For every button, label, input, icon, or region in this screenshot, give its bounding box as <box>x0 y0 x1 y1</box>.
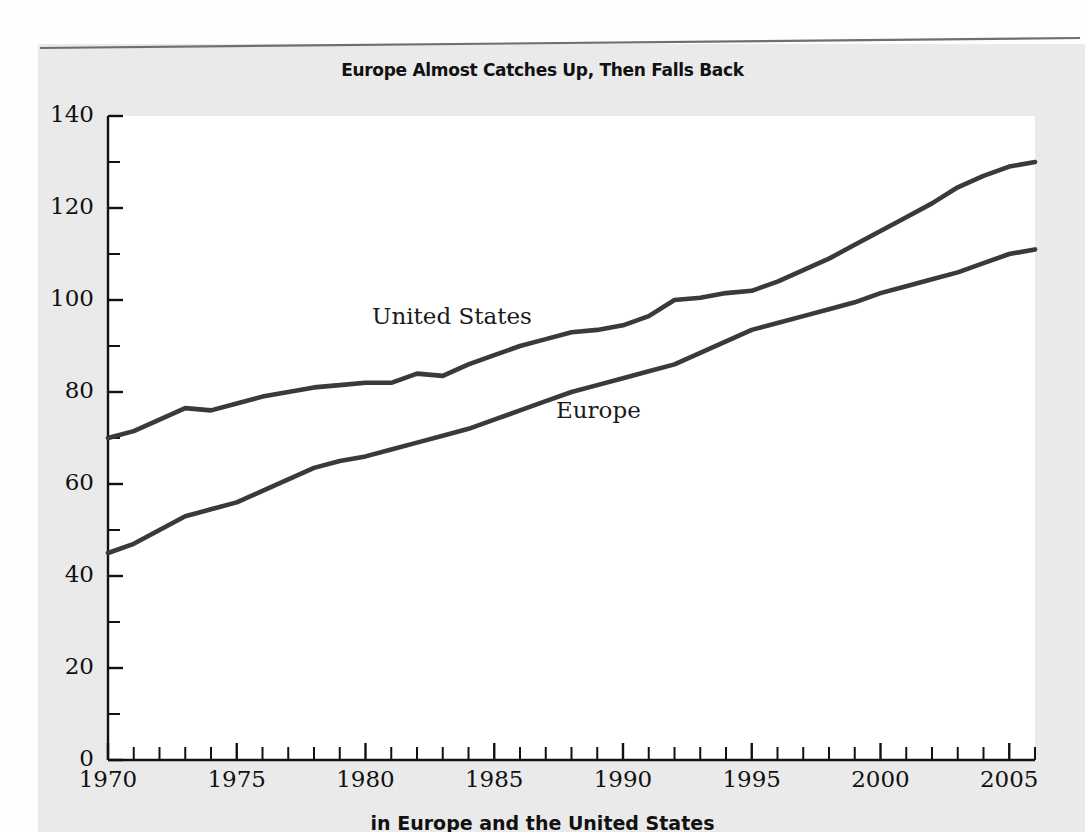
axis-ticks <box>108 116 1035 760</box>
x-tick-label: 1995 <box>697 766 807 792</box>
y-tick-label: 40 <box>24 561 94 587</box>
chart-graphics <box>0 0 1085 832</box>
x-tick-label: 1990 <box>568 766 678 792</box>
x-tick-label: 1985 <box>439 766 549 792</box>
y-tick-label: 100 <box>24 285 94 311</box>
figure-caption: in Europe and the United States <box>0 812 1085 832</box>
y-tick-label: 120 <box>24 193 94 219</box>
x-tick-label: 1980 <box>311 766 421 792</box>
y-tick-label: 60 <box>24 469 94 495</box>
series-label-united-states: United States <box>372 303 532 329</box>
x-tick-label: 2000 <box>826 766 936 792</box>
x-tick-label: 1970 <box>53 766 163 792</box>
chart-title: Europe Almost Catches Up, Then Falls Bac… <box>0 60 1085 80</box>
data-series <box>108 162 1035 553</box>
y-tick-label: 20 <box>24 653 94 679</box>
series-label-europe: Europe <box>556 397 641 423</box>
y-tick-label: 80 <box>24 377 94 403</box>
axes <box>108 116 1035 760</box>
x-tick-label: 1975 <box>182 766 292 792</box>
x-tick-label: 2005 <box>954 766 1064 792</box>
scanned-page: Europe Almost Catches Up, Then Falls Bac… <box>0 0 1085 832</box>
y-tick-label: 140 <box>24 101 94 127</box>
